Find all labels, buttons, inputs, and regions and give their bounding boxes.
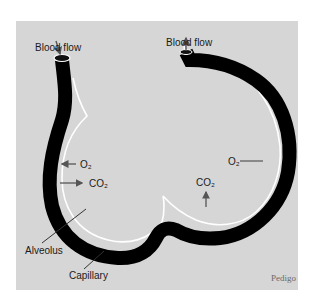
o2-right-label: O₂ (228, 156, 240, 167)
co2-bottom-label: CO₂ (196, 177, 215, 188)
alveolus-label: Alveolus (25, 245, 63, 256)
credit-text: Pedigo (271, 273, 297, 283)
co2-left-label: CO₂ (89, 178, 108, 189)
alveolus-capillary-diagram: Blood flow Blood flow O₂ CO₂ O₂ CO₂ Alve… (0, 0, 315, 304)
capillary-inlet (54, 55, 70, 62)
capillary-label: Capillary (69, 270, 108, 281)
blood-flow-out-label: Blood flow (166, 37, 213, 48)
capillary-tube (50, 52, 290, 258)
blood-flow-in-label: Blood flow (35, 42, 82, 53)
o2-left-label: O₂ (80, 159, 92, 170)
